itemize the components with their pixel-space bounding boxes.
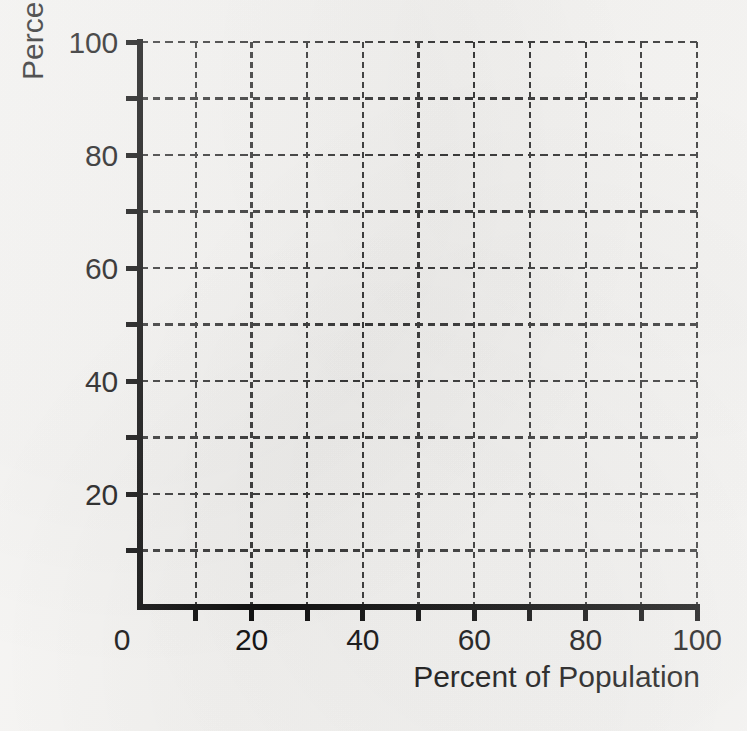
- origin-label-0: 0: [114, 625, 131, 655]
- x-tick-label-20: 20: [235, 625, 268, 655]
- x-tick-label-80: 80: [569, 625, 602, 655]
- y-tick-label-60: 60: [40, 254, 118, 284]
- x-tick-label-100: 100: [672, 625, 721, 655]
- x-tick-label-40: 40: [346, 625, 379, 655]
- x-tick-label-60: 60: [458, 625, 491, 655]
- y-axis-title: Percent of Money Income: [14, 0, 52, 80]
- lorenz-curve-chart: 100 80 60 40 20 0 20 40 60 80 100 Percen…: [0, 0, 747, 731]
- y-tick-label-40: 40: [40, 367, 118, 397]
- y-tick-label-80: 80: [40, 141, 118, 171]
- x-axis-title: Percent of Population: [240, 662, 700, 692]
- y-tick-label-20: 20: [40, 480, 118, 510]
